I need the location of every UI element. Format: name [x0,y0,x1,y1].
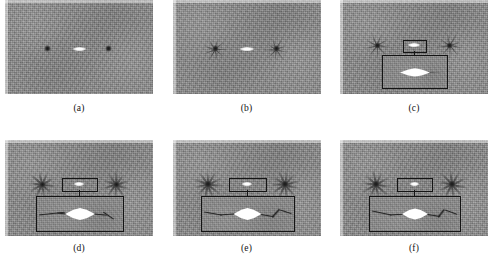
roi-rectangle [397,178,433,192]
panel-caption: (b) [241,103,253,113]
noise-field [5,0,153,94]
roi-rectangle [403,40,427,53]
panel-e: (e) [168,140,326,279]
magnified-inset-box [201,196,295,232]
magnified-inset-box [36,196,124,232]
panel-caption: (a) [73,103,84,113]
panel-b-image [173,0,321,94]
panel-caption: (e) [241,243,252,253]
panel-a: (a) [0,0,158,140]
figure-container: (a) [0,0,493,279]
panel-c-image [340,0,488,94]
panel-d-image [5,140,153,236]
panel-f-image [340,140,488,236]
panel-row-bottom: (d) [0,140,493,279]
roi-rectangle [62,178,98,192]
panel-caption: (c) [408,103,419,113]
panel-row-top: (a) [0,0,493,140]
noise-field [173,0,321,94]
panel-b: (b) [168,0,326,140]
roi-rectangle [229,178,267,192]
panel-f: (f) [335,140,493,279]
panel-c: (c) [335,0,493,140]
panel-e-image [173,140,321,236]
panel-caption: (f) [409,243,419,253]
panel-caption: (d) [73,243,85,253]
magnified-inset-box [382,55,448,89]
panel-a-image [5,0,153,94]
magnified-inset-box [369,196,461,232]
panel-d: (d) [0,140,158,279]
